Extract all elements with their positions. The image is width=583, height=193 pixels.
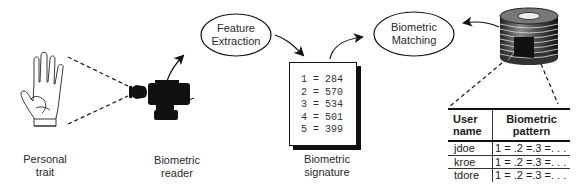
hand-icon [21, 52, 63, 126]
biometric-reader-label: Biometric reader [147, 154, 207, 180]
pattern-cell: 1 = .2 =.3 =. . . [493, 169, 571, 182]
pattern-cell: 1 = .2 =.3 =. . . [493, 141, 571, 155]
personal-trait-label-line1: Personal [15, 153, 75, 166]
biometric-reader-label-line1: Biometric [147, 154, 207, 167]
arrow-database-to-matching [464, 22, 499, 27]
biometric-reader-label-line2: reader [147, 167, 207, 180]
user-name-cell: tdore [448, 169, 493, 182]
feature-extraction-label: Feature Extraction [201, 22, 271, 48]
table-row: jdoe 1 = .2 =.3 =. . . [448, 141, 570, 155]
signature-value: 5 = 399 [290, 124, 356, 137]
arrow-signature-to-matching [330, 37, 362, 59]
pattern-cell: 1 = .2 =.3 =. . . [493, 155, 571, 169]
signature-value: 4 = 501 [290, 112, 356, 125]
biometric-matching-label: Biometric Matching [374, 21, 454, 47]
database-icon [500, 8, 558, 65]
feature-extraction-label-line2: Extraction [201, 35, 271, 48]
table-row: kroe 1 = .2 =.3 =. . . [448, 155, 570, 169]
arrow-extraction-to-signature [275, 35, 303, 55]
scan-line-bottom [68, 96, 128, 124]
zoom-line-left [449, 63, 502, 107]
biometric-signature-label-line2: signature [294, 166, 360, 179]
signature-value: 2 = 570 [290, 87, 356, 100]
zoom-line-right [541, 64, 558, 104]
table-header-row: User name Biometric pattern [448, 109, 570, 141]
header-line: User [453, 113, 490, 125]
header-line: Biometric [495, 113, 568, 125]
signature-value: 1 = 284 [290, 74, 356, 87]
biometric-matching-label-line1: Biometric [374, 21, 454, 34]
user-name-cell: kroe [448, 155, 493, 169]
header-line: name [453, 125, 490, 137]
header-line: pattern [495, 125, 568, 137]
biometric-reader-icon [129, 80, 194, 120]
user-name-cell: jdoe [448, 141, 493, 155]
biometric-signature-card: 1 = 284 2 = 570 3 = 534 4 = 501 5 = 399 [289, 62, 357, 146]
feature-extraction-label-line1: Feature [201, 22, 271, 35]
scan-line-top [68, 57, 128, 86]
biometric-database-table: User name Biometric pattern jdoe 1 = .2 … [448, 108, 570, 182]
personal-trait-label-line2: trait [15, 166, 75, 179]
signature-value: 3 = 534 [290, 99, 356, 112]
arrow-reader-to-extraction [167, 56, 183, 81]
column-header-user-name: User name [448, 109, 493, 141]
biometric-matching-label-line2: Matching [374, 34, 454, 47]
column-header-biometric-pattern: Biometric pattern [493, 109, 571, 141]
biometric-signature-label: Biometric signature [294, 153, 360, 179]
biometric-signature-label-line1: Biometric [294, 153, 360, 166]
personal-trait-label: Personal trait [15, 153, 75, 179]
table-row: tdore 1 = .2 =.3 =. . . [448, 169, 570, 182]
